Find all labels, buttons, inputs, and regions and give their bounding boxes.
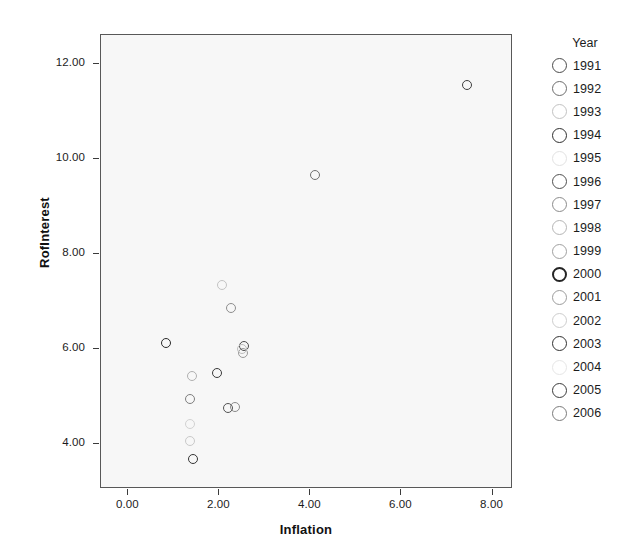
- legend-item[interactable]: 1996: [552, 170, 632, 193]
- legend-item-label: 1994: [573, 128, 601, 142]
- x-tick-label: 0.00: [97, 498, 157, 510]
- data-point: [226, 303, 236, 313]
- data-point: [230, 402, 240, 412]
- y-tick-mark: [93, 158, 99, 159]
- x-tick-label: 4.00: [279, 498, 339, 510]
- legend-item[interactable]: 2003: [552, 332, 632, 355]
- legend-item[interactable]: 1992: [552, 77, 632, 100]
- scatter-chart: 0.002.004.006.008.004.006.008.0010.0012.…: [0, 0, 633, 560]
- legend-item[interactable]: 1997: [552, 193, 632, 216]
- legend-item[interactable]: 1994: [552, 124, 632, 147]
- legend-circle-icon: [552, 220, 567, 235]
- x-tick-label: 2.00: [188, 498, 248, 510]
- legend-item[interactable]: 1998: [552, 216, 632, 239]
- legend-item-label: 1991: [573, 59, 601, 73]
- legend-item-label: 1997: [573, 198, 601, 212]
- data-point: [188, 454, 198, 464]
- y-tick-mark: [93, 63, 99, 64]
- legend-item-label: 2006: [573, 406, 601, 420]
- data-point: [462, 80, 472, 90]
- legend-item-label: 2004: [573, 360, 601, 374]
- x-tick-mark: [492, 489, 493, 495]
- legend-circle-icon: [552, 336, 567, 351]
- y-tick-mark: [93, 348, 99, 349]
- data-point: [212, 368, 222, 378]
- y-tick-mark: [93, 253, 99, 254]
- legend-circle-icon: [552, 58, 567, 73]
- legend-item-label: 2001: [573, 290, 601, 304]
- y-tick-mark: [93, 443, 99, 444]
- legend-circle-icon: [552, 151, 567, 166]
- legend-item-label: 2000: [573, 267, 601, 281]
- legend-item[interactable]: 1995: [552, 147, 632, 170]
- legend-item[interactable]: 2000: [552, 263, 632, 286]
- legend-circle-icon: [552, 244, 567, 259]
- data-points-layer: [101, 35, 511, 487]
- legend-circle-icon: [552, 406, 567, 421]
- y-tick-label: 10.00: [25, 151, 85, 163]
- legend-title: Year: [554, 36, 616, 50]
- legend-item-label: 1995: [573, 151, 601, 165]
- legend-item[interactable]: 2006: [552, 402, 632, 425]
- legend-circle-icon: [552, 383, 567, 398]
- legend-item-label: 1999: [573, 244, 601, 258]
- x-tick-mark: [218, 489, 219, 495]
- legend-item-label: 1992: [573, 82, 601, 96]
- legend-item[interactable]: 1991: [552, 54, 632, 77]
- data-point: [310, 170, 320, 180]
- legend-circle-icon: [552, 360, 567, 375]
- legend-item[interactable]: 1993: [552, 100, 632, 123]
- legend-item[interactable]: 1999: [552, 240, 632, 263]
- x-tick-mark: [400, 489, 401, 495]
- plot-area: [100, 34, 512, 488]
- legend-item-label: 2002: [573, 314, 601, 328]
- x-tick-label: 8.00: [462, 498, 522, 510]
- legend-item-label: 1993: [573, 105, 601, 119]
- legend-circle-icon: [552, 128, 567, 143]
- x-tick-mark: [309, 489, 310, 495]
- legend-circle-icon: [552, 104, 567, 119]
- legend-item-label: 2005: [573, 383, 601, 397]
- legend-item[interactable]: 2005: [552, 379, 632, 402]
- x-tick-mark: [127, 489, 128, 495]
- data-point: [161, 338, 171, 348]
- data-point: [237, 344, 247, 354]
- y-tick-label: 8.00: [25, 246, 85, 258]
- x-tick-label: 6.00: [370, 498, 430, 510]
- legend-circle-icon: [552, 174, 567, 189]
- data-point: [185, 419, 195, 429]
- data-point: [187, 371, 197, 381]
- y-tick-label: 12.00: [25, 56, 85, 68]
- y-tick-label: 6.00: [25, 341, 85, 353]
- legend-item-label: 1998: [573, 221, 601, 235]
- legend-item[interactable]: 2001: [552, 286, 632, 309]
- legend-item-label: 2003: [573, 337, 601, 351]
- y-axis-title: RofInterest: [37, 163, 52, 303]
- legend-circle-icon: [552, 81, 567, 96]
- legend-circle-icon: [552, 267, 567, 282]
- legend-item[interactable]: 2002: [552, 309, 632, 332]
- data-point: [185, 436, 195, 446]
- legend: Year 19911992199319941995199619971998199…: [552, 36, 632, 425]
- y-tick-label: 4.00: [25, 436, 85, 448]
- data-point: [185, 394, 195, 404]
- legend-circle-icon: [552, 313, 567, 328]
- legend-circle-icon: [552, 290, 567, 305]
- legend-item-label: 1996: [573, 175, 601, 189]
- x-axis-title: Inflation: [100, 522, 512, 537]
- legend-item[interactable]: 2004: [552, 355, 632, 378]
- data-point: [217, 280, 227, 290]
- legend-circle-icon: [552, 197, 567, 212]
- legend-items: 1991199219931994199519961997199819992000…: [552, 54, 632, 425]
